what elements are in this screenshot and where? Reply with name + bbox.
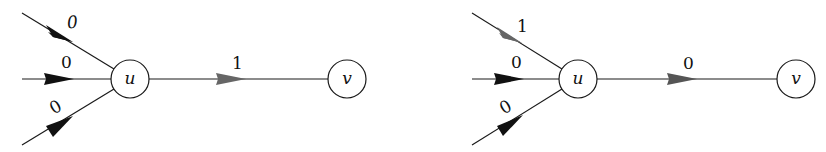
arrowhead-out-icon bbox=[667, 73, 697, 85]
node-v-label: v bbox=[342, 68, 352, 88]
arrowhead-in-middle-icon bbox=[494, 73, 524, 85]
edge-in-bottom bbox=[472, 89, 562, 145]
node-v-label: v bbox=[791, 68, 801, 88]
node-u-label: u bbox=[125, 68, 136, 88]
label-in-middle: 0 bbox=[61, 52, 72, 72]
label-out: 0 bbox=[683, 53, 694, 73]
left-diagram: 0 0 0 1 u v bbox=[22, 12, 366, 145]
diagram-canvas: 0 0 0 1 u v 1 0 0 0 u v bbox=[0, 0, 826, 152]
label-in-top: 0 bbox=[66, 12, 79, 33]
arrowhead-in-bottom-icon bbox=[46, 116, 73, 137]
right-diagram: 1 0 0 0 u v bbox=[472, 13, 815, 145]
arrowhead-in-middle-icon bbox=[44, 73, 74, 85]
label-in-bottom: 0 bbox=[46, 95, 65, 118]
node-u-label: u bbox=[573, 68, 584, 88]
label-out: 1 bbox=[232, 53, 243, 73]
arrowhead-in-bottom-icon bbox=[497, 115, 523, 136]
label-in-bottom: 0 bbox=[496, 95, 515, 118]
arrowhead-out-icon bbox=[216, 73, 246, 85]
label-in-middle: 0 bbox=[511, 52, 522, 72]
edge-in-bottom bbox=[22, 89, 114, 145]
label-in-top: 1 bbox=[517, 16, 528, 36]
